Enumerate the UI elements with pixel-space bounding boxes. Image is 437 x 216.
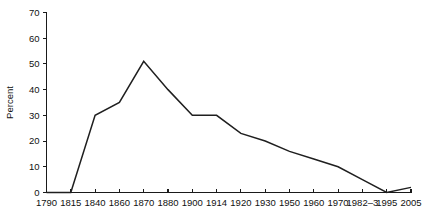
- x-axis-tick-label: 2005: [400, 197, 421, 208]
- y-axis-tick-label: 10: [29, 161, 40, 172]
- y-axis-tick-label: 20: [29, 135, 40, 146]
- x-axis-tick-label: 1950: [279, 197, 300, 208]
- x-axis-tick-label: 1970: [328, 197, 349, 208]
- x-axis-tick-label: 1870: [133, 197, 154, 208]
- x-axis-tick-label: 1914: [206, 197, 227, 208]
- y-axis-title: Percent: [4, 86, 15, 119]
- x-axis-tick-label: 1790: [36, 197, 57, 208]
- x-axis-tick-label: 1860: [109, 197, 130, 208]
- y-axis-tick-label: 70: [29, 7, 40, 18]
- x-axis-tick-label: 1960: [303, 197, 324, 208]
- x-axis-tick-label: 1815: [60, 197, 81, 208]
- axis-spines: [47, 13, 412, 193]
- x-axis-tick-label: 1880: [157, 197, 178, 208]
- x-axis-tick-label: 1900: [182, 197, 203, 208]
- x-axis-tick-labels: 1790181518401860187018801900191419201930…: [36, 197, 422, 208]
- x-axis-tick-label: 1920: [230, 197, 251, 208]
- x-axis-tick-label: 1982–3: [347, 197, 379, 208]
- y-axis-tick-label: 40: [29, 84, 40, 95]
- y-axis-tick-labels: 010203040506070: [29, 7, 40, 198]
- line-chart-figure: 010203040506070 179018151840186018701880…: [0, 0, 437, 216]
- data-series-line: [47, 61, 412, 192]
- x-axis-tick-label: 1840: [85, 197, 106, 208]
- y-axis-tick-label: 60: [29, 33, 40, 44]
- y-axis-tick-label: 30: [29, 110, 40, 121]
- y-axis-tick-label: 50: [29, 58, 40, 69]
- plot-area: 010203040506070 179018151840186018701880…: [4, 7, 422, 208]
- x-axis-tick-marks: [47, 189, 412, 193]
- x-axis-tick-label: 1995: [376, 197, 397, 208]
- x-axis-tick-label: 1930: [255, 197, 276, 208]
- chart-canvas: 010203040506070 179018151840186018701880…: [0, 0, 437, 216]
